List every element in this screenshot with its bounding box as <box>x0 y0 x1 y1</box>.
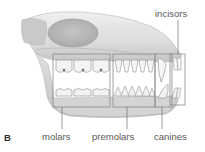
upper-canine <box>158 58 166 82</box>
lower-incisors <box>172 88 181 98</box>
panel-letter: B <box>4 133 11 143</box>
nasal-cavity <box>21 18 46 44</box>
label-incisors: incisors <box>155 9 187 19</box>
label-canines: canines <box>154 132 187 142</box>
lower-canine <box>158 84 168 98</box>
skull-diagram <box>0 0 205 152</box>
label-premolars: premolars <box>92 132 134 142</box>
mandible-body <box>52 96 176 117</box>
lower-premolars <box>114 86 155 96</box>
eye-socket <box>48 19 98 47</box>
label-molars: molars <box>42 132 71 142</box>
lower-molars <box>56 89 109 97</box>
upper-premolars <box>115 60 154 72</box>
upper-incisors <box>173 58 181 70</box>
